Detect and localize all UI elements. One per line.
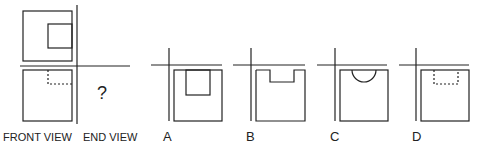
option-a-label[interactable]: A [163,129,172,144]
question-mark: ? [97,83,107,104]
option-d-figure[interactable] [399,48,469,121]
option-c-label[interactable]: C [330,129,339,144]
front-view [23,70,72,121]
top-view [23,11,72,61]
option-b-figure[interactable] [233,48,305,121]
given-views [20,5,130,124]
option-b-label[interactable]: B [246,129,255,144]
option-c-figure[interactable] [317,48,388,121]
option-d-label[interactable]: D [412,129,421,144]
front-view-label: FRONT VIEW [3,131,72,143]
projection-diagram [0,0,479,149]
option-a-figure[interactable] [151,48,222,121]
end-view-label: END VIEW [83,131,137,143]
